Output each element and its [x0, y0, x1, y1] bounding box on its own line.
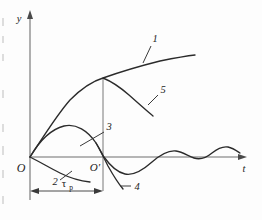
curve-2-label: 2 [52, 176, 58, 187]
origin-label: O [17, 161, 26, 175]
curve-3-label: 3 [105, 121, 111, 132]
curve-5-label: 5 [160, 84, 165, 95]
curve-5-path [103, 78, 153, 116]
t-axis [30, 154, 247, 160]
tau-p-label: τ p [62, 177, 73, 192]
tau-subscript: p [69, 183, 73, 192]
y-axis-label: y [16, 13, 22, 24]
curve-2-path [30, 157, 90, 182]
curve-3-path [30, 125, 240, 174]
curve-1-label: 1 [152, 33, 157, 44]
curve-4-label: 4 [134, 181, 140, 192]
tau-symbol: τ [62, 177, 67, 189]
curve-1-leader [143, 46, 151, 63]
curve-3-leader [80, 132, 104, 146]
y-axis [27, 10, 33, 200]
tau-p-dimension [30, 188, 103, 194]
response-curves-figure: y t O O′ 1 2 3 4 5 τ p [0, 0, 262, 220]
curve-1-path [30, 55, 195, 157]
figure-container: y t O O′ 1 2 3 4 5 τ p [0, 0, 262, 220]
curve-5-leader [148, 95, 158, 105]
second-origin-label: O′ [90, 161, 101, 173]
t-axis-label: t [243, 163, 247, 174]
